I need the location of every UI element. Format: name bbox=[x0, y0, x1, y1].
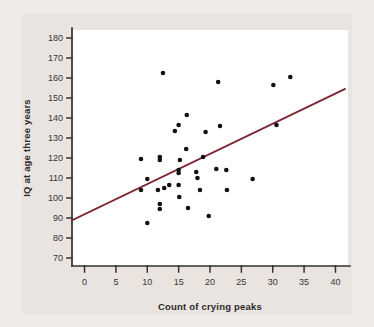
data-point bbox=[201, 155, 206, 160]
data-point bbox=[203, 130, 208, 135]
y-tick-label: 150 bbox=[48, 93, 63, 103]
y-tick-label: 160 bbox=[48, 73, 63, 83]
data-point bbox=[139, 188, 144, 193]
y-tick-label: 170 bbox=[48, 53, 63, 63]
x-axis-ticks: 0510152025303540 bbox=[82, 266, 340, 287]
data-point bbox=[176, 183, 181, 188]
x-tick-label: 40 bbox=[330, 277, 340, 287]
x-tick-label: 15 bbox=[174, 277, 184, 287]
data-point bbox=[173, 129, 178, 134]
data-point bbox=[206, 214, 211, 219]
data-point bbox=[194, 170, 199, 175]
data-point bbox=[271, 83, 276, 88]
data-point bbox=[145, 177, 150, 182]
y-axis-ticks: 708090100110120130140150160170180 bbox=[48, 33, 72, 263]
data-point bbox=[186, 206, 191, 211]
plot-area-background bbox=[72, 30, 348, 266]
data-point bbox=[139, 157, 144, 162]
x-tick-label: 25 bbox=[236, 277, 246, 287]
y-tick-label: 140 bbox=[48, 113, 63, 123]
x-tick-label: 5 bbox=[113, 277, 118, 287]
x-tick-label: 20 bbox=[205, 277, 215, 287]
data-point bbox=[198, 188, 203, 193]
data-point bbox=[158, 158, 163, 163]
data-point bbox=[250, 177, 255, 182]
data-point bbox=[288, 75, 293, 80]
data-point bbox=[158, 202, 163, 207]
data-point bbox=[177, 195, 182, 200]
data-point bbox=[216, 80, 221, 85]
data-point bbox=[184, 147, 189, 152]
scatter-plot: 708090100110120130140150160170180 051015… bbox=[0, 0, 374, 327]
data-point bbox=[156, 188, 161, 193]
data-point bbox=[162, 186, 167, 191]
y-tick-label: 120 bbox=[48, 153, 63, 163]
data-point bbox=[195, 176, 200, 181]
y-tick-label: 100 bbox=[48, 193, 63, 203]
data-point bbox=[184, 113, 189, 118]
y-axis-title: IQ at age three years bbox=[21, 99, 32, 197]
data-point bbox=[274, 123, 279, 128]
y-tick-label: 180 bbox=[48, 33, 63, 43]
data-point bbox=[176, 123, 181, 128]
y-tick-label: 80 bbox=[53, 233, 63, 243]
y-tick-label: 70 bbox=[53, 253, 63, 263]
data-point bbox=[225, 188, 230, 193]
y-tick-label: 90 bbox=[53, 213, 63, 223]
x-tick-label: 10 bbox=[142, 277, 152, 287]
x-axis-title: Count of crying peaks bbox=[158, 301, 262, 312]
data-point bbox=[145, 221, 150, 226]
data-point bbox=[161, 71, 166, 76]
y-tick-label: 110 bbox=[49, 173, 63, 183]
data-point bbox=[224, 168, 229, 173]
figure-container: 708090100110120130140150160170180 051015… bbox=[0, 0, 374, 327]
data-point bbox=[158, 207, 163, 212]
x-tick-label: 30 bbox=[268, 277, 278, 287]
data-point bbox=[218, 124, 223, 129]
data-point bbox=[178, 158, 183, 163]
data-point bbox=[167, 183, 172, 188]
data-point bbox=[214, 167, 219, 172]
x-tick-label: 35 bbox=[299, 277, 309, 287]
data-point bbox=[176, 171, 181, 176]
x-tick-label: 0 bbox=[82, 277, 87, 287]
y-tick-label: 130 bbox=[48, 133, 63, 143]
